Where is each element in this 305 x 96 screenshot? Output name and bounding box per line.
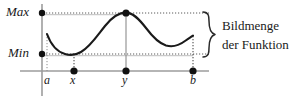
- function-curve: [47, 13, 193, 55]
- axis-label-x: x: [70, 74, 75, 86]
- range-annotation: Bildmenge der Funktion: [222, 17, 289, 55]
- min-label: Min: [8, 46, 29, 59]
- max-label: Max: [6, 5, 29, 18]
- range-brace-icon: [203, 12, 215, 57]
- range-annotation-line-2: der Funktion: [222, 36, 289, 55]
- curve-maximum-dot: [122, 9, 129, 16]
- axis-label-b: b: [190, 74, 196, 86]
- range-annotation-line-1: Bildmenge: [222, 17, 289, 36]
- axis-label-y: y: [122, 74, 127, 86]
- min-value-dot: [39, 51, 45, 57]
- axis-label-a: a: [44, 74, 50, 86]
- max-value-dot: [39, 10, 45, 16]
- figure-container: Max Min a x y b Bildmenge der Funktion: [0, 0, 305, 96]
